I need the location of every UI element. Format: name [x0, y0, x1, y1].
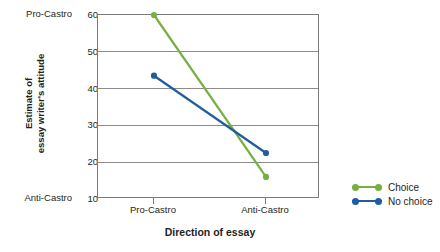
- legend: Choice No choice: [352, 180, 432, 208]
- y-tick-label-30: 30: [76, 119, 98, 130]
- data-point-choice-anti-castro: [263, 174, 269, 180]
- y-tick-label-20: 20: [76, 156, 98, 167]
- series-layer: [98, 15, 320, 199]
- plot-area: [97, 14, 319, 198]
- x-tick-label-anti-castro: Anti-Castro: [220, 204, 310, 215]
- series-line-choice: [154, 15, 266, 177]
- y-tick-label-40: 40: [76, 83, 98, 94]
- data-point-no-choice-pro-castro: [151, 73, 157, 79]
- y-axis-title-line-1: Estimate of: [23, 24, 35, 184]
- legend-label-choice: Choice: [388, 182, 419, 193]
- y-axis-title-line-2: essay writer's attitude: [34, 24, 46, 184]
- y-axis-top-category-label: Pro-Castro: [6, 8, 72, 19]
- chart-figure: Pro-Castro Anti-Castro Estimate of essay…: [0, 0, 440, 252]
- legend-label-no-choice: No choice: [388, 196, 432, 207]
- x-axis-title: Direction of essay: [120, 226, 300, 238]
- y-tick-label-60: 60: [76, 9, 98, 20]
- y-tick-label-50: 50: [76, 46, 98, 57]
- legend-item-choice[interactable]: Choice: [352, 180, 432, 194]
- y-tick-label-10: 10: [76, 193, 98, 204]
- data-point-no-choice-anti-castro: [263, 150, 269, 156]
- legend-swatch-no-choice: [352, 196, 382, 206]
- y-axis-title: Estimate of essay writer's attitude: [23, 24, 46, 184]
- series-line-no-choice: [154, 76, 266, 153]
- legend-swatch-choice: [352, 182, 382, 192]
- legend-item-no-choice[interactable]: No choice: [352, 194, 432, 208]
- y-axis-bottom-category-label: Anti-Castro: [6, 192, 72, 203]
- data-point-choice-pro-castro: [151, 12, 157, 18]
- x-tick-label-pro-castro: Pro-Castro: [108, 204, 198, 215]
